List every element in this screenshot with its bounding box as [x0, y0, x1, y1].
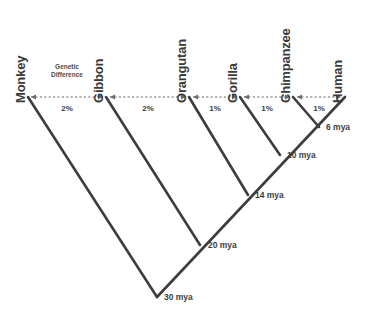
- taxon-label-monkey: Monkey: [13, 56, 28, 103]
- divergence-node-root: 30 mya: [164, 292, 193, 302]
- genetic-difference-line-2: Difference: [51, 71, 83, 79]
- branch-root-right: [157, 97, 345, 297]
- branch-gorilla: [240, 97, 280, 155]
- taxon-label-gibbon: Gibbon: [91, 59, 106, 103]
- tree-branches: [28, 97, 345, 297]
- taxon-label-orangutan: Orangutan: [174, 39, 189, 103]
- divergence-node-gibbon-clade: 20 mya: [208, 240, 237, 250]
- genetic-difference-monkey-gibbon: 2%: [61, 104, 73, 113]
- phylogenetic-tree-diagram: Genetic Difference Monkey Gibbon Orangut…: [0, 0, 377, 316]
- branch-gibbon: [106, 97, 200, 245]
- genetic-difference-orangutan-gorilla: 1%: [209, 104, 221, 113]
- divergence-node-orang-clade: 14 mya: [255, 190, 284, 200]
- genetic-difference-scale-label: Genetic Difference: [51, 63, 83, 79]
- genetic-difference-chimp-human: 1%: [313, 104, 325, 113]
- genetic-difference-gibbon-orangutan: 2%: [142, 104, 154, 113]
- divergence-node-chimp-human: 6 mya: [326, 122, 350, 132]
- genetic-difference-line-1: Genetic: [51, 63, 83, 71]
- branch-monkey: [28, 97, 157, 297]
- taxon-label-gorilla: Gorilla: [225, 63, 240, 103]
- genetic-difference-gorilla-chimp: 1%: [261, 104, 273, 113]
- taxon-label-chimpanzee: Chimpanzee: [278, 28, 293, 103]
- divergence-node-gorilla-clade: 10 mya: [287, 150, 316, 160]
- taxon-label-human: Human: [330, 60, 345, 103]
